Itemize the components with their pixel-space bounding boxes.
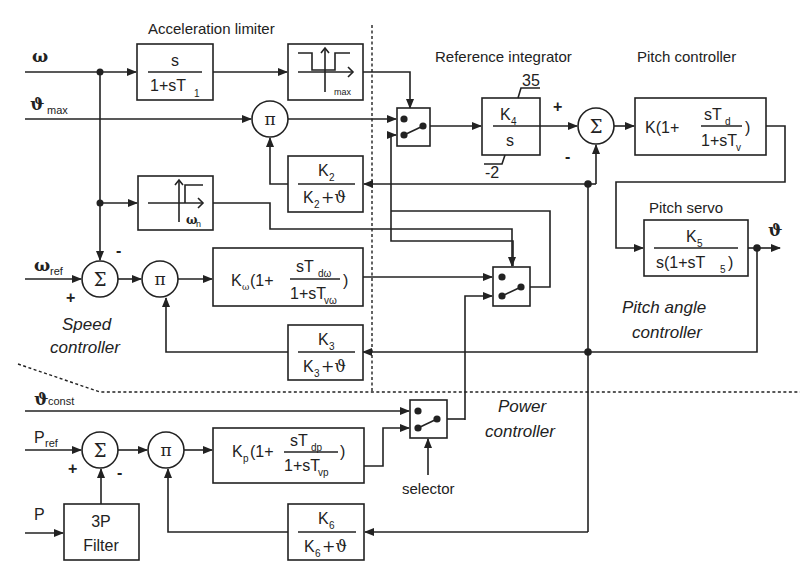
svg-text:K: K [318,162,329,179]
svg-text:K: K [304,538,315,555]
svg-text:Σ: Σ [94,440,107,461]
input-theta-const: ϑ const [34,389,74,409]
svg-text:K: K [303,358,314,375]
label-pitch-angle-controller-line2: controller [632,323,703,342]
svg-text:6: 6 [315,548,321,559]
svg-text:2: 2 [314,199,320,210]
svg-text:π: π [154,269,165,289]
label-power-controller-line2: controller [485,422,556,441]
svg-text:-: - [565,148,570,165]
label-pitch-controller: Pitch controller [637,48,736,65]
svg-text:(1+: (1+ [250,272,274,289]
svg-text:K: K [686,228,697,245]
svg-text:K: K [500,106,511,123]
svg-text:+: + [68,460,77,477]
svg-text:ref: ref [50,265,64,277]
svg-text:Σ: Σ [94,269,107,290]
svg-text:): ) [745,119,750,136]
svg-text:3P: 3P [91,513,111,530]
svg-text:-: - [116,242,121,259]
svg-text:vp: vp [318,467,329,478]
svg-text:ω: ω [242,282,249,292]
svg-text:ϑ: ϑ [34,389,48,409]
svg-text:max: max [47,104,68,116]
svg-text:n: n [196,219,201,229]
svg-text:ref: ref [45,437,59,449]
svg-text:1+sT: 1+sT [284,457,320,474]
label-pitch-servo: Pitch servo [649,199,723,216]
svg-text:K: K [318,331,329,348]
input-omega: ω [32,46,48,66]
svg-text:K(1+: K(1+ [645,119,679,136]
input-p-ref: P ref [34,429,59,449]
svg-text:P: P [34,506,45,523]
svg-text:K: K [318,510,329,527]
svg-text:K: K [231,272,242,289]
pitch-control-diagram: Acceleration limiter Reference integrato… [0,0,801,586]
switch-3-selector [410,400,447,438]
output-theta: ϑ [768,220,782,240]
svg-text:s: s [171,52,179,69]
svg-text:sT: sT [296,258,314,275]
svg-text:-2: -2 [485,164,499,181]
input-theta-max: ϑ max [30,94,68,116]
svg-text:1+sT: 1+sT [150,77,186,94]
svg-text:ω: ω [34,255,50,275]
svg-text:π: π [160,440,171,460]
svg-text:max: max [334,87,352,97]
svg-text:s: s [506,132,514,149]
svg-text:+: + [553,98,562,115]
svg-text:K: K [232,443,243,460]
region-divider-horizontal [18,364,800,392]
svg-text:): ) [343,272,348,289]
svg-text:vω: vω [324,295,337,306]
input-p: P [34,506,45,523]
svg-text:3: 3 [314,368,320,379]
svg-text:1: 1 [194,88,200,99]
label-pitch-angle-controller-line1: Pitch angle [622,298,706,317]
diagram-svg: Acceleration limiter Reference integrato… [0,0,801,586]
label-speed-controller-line1: Speed [62,315,112,334]
svg-text:+ϑ: +ϑ [321,188,346,207]
svg-text:ω: ω [32,46,48,66]
svg-text:2: 2 [329,172,335,183]
svg-text:+ϑ: +ϑ [321,357,346,376]
svg-text:3: 3 [329,341,335,352]
svg-text:Σ: Σ [590,116,603,137]
input-omega-ref: ω ref [34,255,64,277]
label-acceleration-limiter: Acceleration limiter [148,20,275,37]
svg-text:sT: sT [290,432,308,449]
svg-text:v: v [736,142,741,153]
svg-text:s(1+sT: s(1+sT [656,254,706,271]
label-power-controller-line1: Power [498,397,548,416]
svg-text:dω: dω [318,268,332,279]
label-reference-integrator: Reference integrator [435,48,572,65]
svg-text:): ) [340,443,345,460]
svg-text:1+sT: 1+sT [290,285,326,302]
svg-text:): ) [728,254,733,271]
svg-text:1+sT: 1+sT [701,132,737,149]
svg-text:K: K [303,189,314,206]
svg-text:π: π [264,109,275,129]
svg-text:+: + [66,289,75,306]
svg-text:35: 35 [522,72,540,89]
svg-text:6: 6 [329,520,335,531]
svg-text:-: - [117,464,122,481]
label-speed-controller-line2: controller [50,338,121,357]
svg-text:p: p [243,453,249,464]
svg-text:P: P [34,429,45,446]
svg-text:(1+: (1+ [250,443,274,460]
svg-text:Filter: Filter [83,537,119,554]
svg-text:sT: sT [704,106,722,123]
label-selector: selector [402,480,455,497]
svg-text:5: 5 [720,264,726,275]
svg-text:+ϑ: +ϑ [322,537,347,556]
svg-text:const: const [48,395,74,407]
svg-text:ϑ: ϑ [30,94,44,114]
